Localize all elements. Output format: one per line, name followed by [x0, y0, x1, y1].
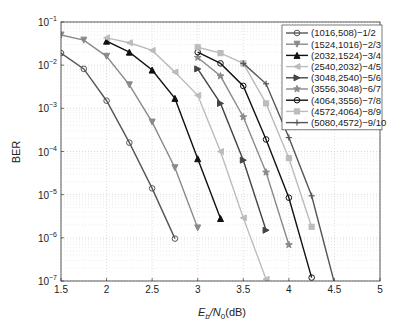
legend-label: (1016,508)−1/2 [311, 27, 376, 38]
square-marker-icon [309, 224, 314, 229]
legend-label: (3048,2540)−5/6 [311, 72, 381, 83]
square-marker-icon [286, 156, 291, 161]
legend: (1016,508)−1/2(1524,1016)−2/3(2032,1524)… [282, 25, 386, 130]
legend-label: (2032,1524)−3/4 [311, 50, 381, 61]
legend-label: (2540,2032)−4/5 [311, 61, 381, 72]
x-tick-label: 4.5 [327, 284, 341, 295]
x-tick-label: 5 [377, 284, 383, 295]
x-tick-label: 1.5 [54, 284, 68, 295]
legend-label: (3556,3048)−6/7 [311, 83, 381, 94]
square-marker-icon [263, 101, 268, 106]
legend-label: (1524,1016)−2/3 [311, 39, 381, 50]
legend-label: (4064,3556)−7/8 [311, 95, 381, 106]
square-marker-icon [218, 51, 223, 56]
y-axis-label: BER [10, 141, 22, 164]
x-tick-label: 2.5 [145, 284, 159, 295]
square-marker-icon [294, 109, 299, 114]
x-tick-label: 2 [104, 284, 110, 295]
ber-chart: 1.522.533.544.5510−110−210−310−410−510−6… [0, 0, 404, 325]
x-tick-label: 3 [195, 284, 201, 295]
legend-label: (5080,4572)−9/10 [311, 117, 386, 128]
square-marker-icon [195, 45, 200, 50]
x-tick-label: 3.5 [236, 284, 250, 295]
x-tick-label: 4 [286, 284, 292, 295]
legend-label: (4572,4064)−8/9 [311, 106, 381, 117]
